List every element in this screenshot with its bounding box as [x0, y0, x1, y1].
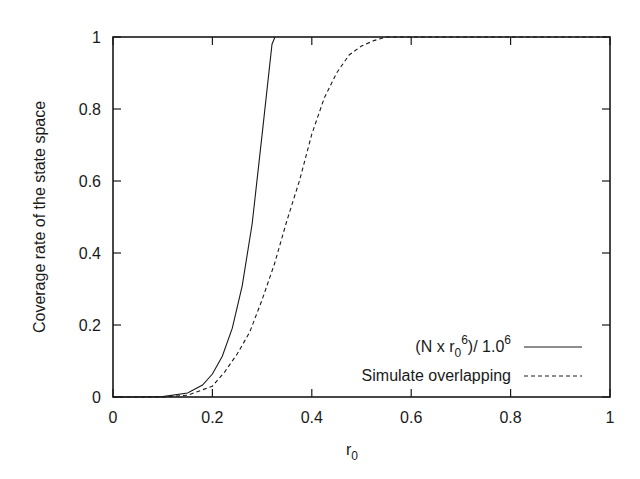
y-axis-ticks: 00.20.40.60.81 — [79, 29, 610, 406]
y-tick-label: 0.6 — [79, 173, 101, 190]
plot-frame — [113, 37, 610, 397]
y-tick-label: 1 — [92, 29, 101, 46]
y-tick-label: 0.2 — [79, 317, 101, 334]
y-tick-label: 0 — [92, 389, 101, 406]
data-series — [113, 37, 610, 397]
series-formula-line — [113, 37, 275, 397]
legend-label-formula: (N x r06)/ 1.06 — [415, 333, 511, 360]
legend-label-simulate: Simulate overlapping — [362, 367, 511, 384]
y-tick-label: 0.8 — [79, 101, 101, 118]
x-tick-label: 0.4 — [301, 409, 323, 426]
x-tick-label: 0.2 — [201, 409, 223, 426]
x-axis-label: r0 — [346, 441, 358, 463]
x-tick-label: 0.8 — [499, 409, 521, 426]
legend: (N x r06)/ 1.06 Simulate overlapping — [362, 333, 582, 384]
x-tick-label: 0 — [109, 409, 118, 426]
y-tick-label: 0.4 — [79, 245, 101, 262]
x-tick-label: 1 — [606, 409, 615, 426]
y-axis-label: Coverage rate of the state space — [31, 101, 48, 333]
series-simulate-line — [113, 37, 610, 397]
chart-canvas: 00.20.40.60.81 00.20.40.60.81 r0 Coverag… — [0, 0, 640, 479]
x-tick-label: 0.6 — [400, 409, 422, 426]
